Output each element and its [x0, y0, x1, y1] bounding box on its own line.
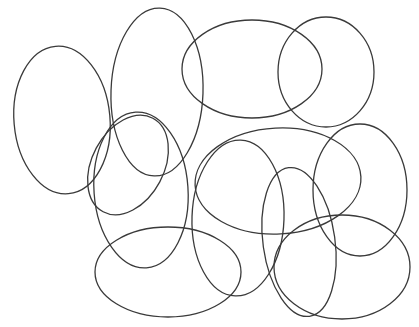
figure-background	[0, 0, 419, 327]
ellipse-canvas-svg	[0, 0, 419, 327]
figure-canvas	[0, 0, 419, 327]
